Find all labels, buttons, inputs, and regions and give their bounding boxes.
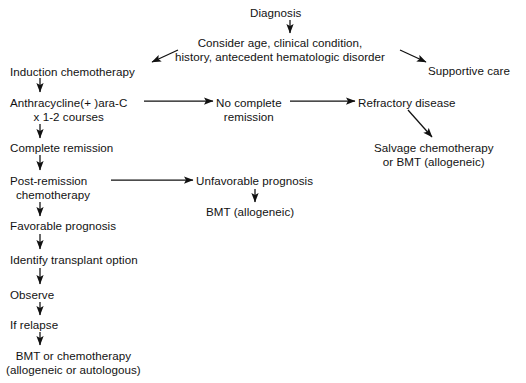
node-unfavorable-prognosis: Unfavorable prognosis: [196, 174, 313, 188]
node-favorable-prognosis: Favorable prognosis: [10, 219, 116, 233]
edge-refractory-to-salvage: [408, 110, 432, 137]
node-if-relapse: If relapse: [10, 318, 58, 332]
node-consider-age: Consider age, clinical condition, histor…: [175, 36, 385, 64]
edge-consider-to-supportive: [400, 50, 426, 62]
node-supportive-care: Supportive care: [428, 64, 510, 78]
node-observe: Observe: [10, 288, 54, 302]
node-bmt-allogeneic: BMT (allogeneic): [206, 205, 294, 219]
node-anthracycline-ara-c: Anthracycline(+ )ara-C x 1-2 courses: [10, 96, 127, 124]
node-refractory-disease: Refractory disease: [358, 96, 456, 110]
node-post-remission-chemotherapy: Post-remission chemotherapy: [10, 174, 90, 202]
flowchart-canvas: Diagnosis Consider age, clinical conditi…: [0, 0, 526, 383]
node-complete-remission: Complete remission: [10, 141, 113, 155]
node-bmt-or-chemotherapy: BMT or chemotherapy (allogeneic or autol…: [6, 349, 141, 377]
node-diagnosis: Diagnosis: [250, 6, 301, 20]
node-salvage-chemotherapy: Salvage chemotherapy or BMT (allogeneic): [374, 141, 494, 169]
node-identify-transplant-option: Identify transplant option: [10, 253, 138, 267]
node-no-complete-remission: No complete remission: [216, 96, 282, 124]
node-induction-chemotherapy: Induction chemotherapy: [10, 65, 135, 79]
